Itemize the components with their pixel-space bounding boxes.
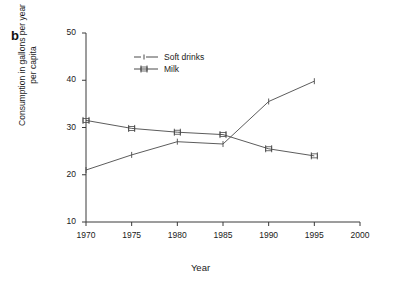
y-tick-label: 10	[52, 216, 76, 226]
x-tick-label: 1975	[117, 230, 147, 240]
figure-panel-b: b Consumption in gallons per year per ca…	[0, 0, 401, 290]
y-tick-label: 50	[52, 27, 76, 37]
y-tick-label: 30	[52, 122, 76, 132]
x-tick-label: 1995	[299, 230, 329, 240]
x-tick-label: 1970	[71, 230, 101, 240]
x-tick-label: 1990	[254, 230, 284, 240]
series-line	[86, 81, 314, 170]
x-tick-label: 1980	[162, 230, 192, 240]
y-tick-label: 20	[52, 169, 76, 179]
x-tick-label: 2000	[345, 230, 375, 240]
x-tick-label: 1985	[208, 230, 238, 240]
series-milk	[83, 117, 317, 159]
series-soft-drinks	[86, 78, 314, 173]
y-tick-label: 40	[52, 74, 76, 84]
plot-area	[0, 0, 401, 290]
series-line	[86, 120, 314, 155]
